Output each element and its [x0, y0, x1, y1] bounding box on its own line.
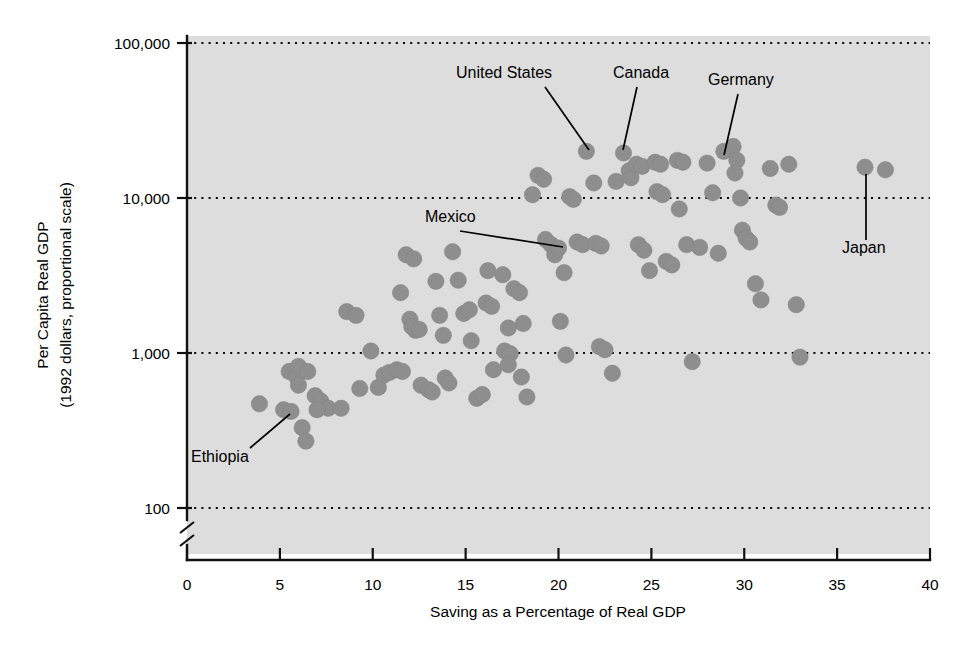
plot-area-background — [187, 36, 930, 554]
x-tick-label: 15 — [457, 576, 474, 593]
data-point — [857, 159, 873, 175]
y-tick-label: 1,000 — [131, 345, 170, 362]
y-axis-title-line1: Per Capita Real GDP — [34, 221, 51, 368]
data-point — [461, 302, 477, 318]
x-tick-label: 40 — [921, 576, 939, 593]
data-point — [411, 321, 427, 337]
data-point — [604, 365, 620, 381]
annotation-label: United States — [456, 64, 552, 81]
data-point — [495, 267, 511, 283]
data-point — [762, 160, 778, 176]
data-point — [753, 292, 769, 308]
data-point — [392, 284, 408, 300]
data-point — [298, 433, 314, 449]
data-point — [788, 296, 804, 312]
x-axis-title: Saving as a Percentage of Real GDP — [430, 603, 686, 620]
data-point — [405, 251, 421, 267]
data-point — [877, 162, 893, 178]
data-point — [363, 343, 379, 359]
data-point — [593, 238, 609, 254]
data-point — [742, 234, 758, 250]
annotation-label: Ethiopia — [191, 448, 249, 465]
x-tick-label: 35 — [829, 576, 846, 593]
data-point — [348, 307, 364, 323]
data-point — [428, 273, 444, 289]
data-point — [251, 396, 267, 412]
data-point — [309, 402, 325, 418]
data-point — [552, 313, 568, 329]
data-point — [480, 262, 496, 278]
data-point — [511, 284, 527, 300]
data-point — [290, 377, 306, 393]
data-point — [500, 357, 516, 373]
data-point — [524, 187, 540, 203]
data-point — [691, 239, 707, 255]
data-point — [727, 165, 743, 181]
x-tick-label: 0 — [183, 576, 192, 593]
data-point — [792, 349, 808, 365]
data-point — [485, 362, 501, 378]
data-point — [664, 257, 680, 273]
data-point — [333, 400, 349, 416]
data-point — [565, 191, 581, 207]
data-point — [394, 363, 410, 379]
annotation-label: Mexico — [425, 208, 476, 225]
x-tick-label: 5 — [276, 576, 285, 593]
data-point — [586, 175, 602, 191]
data-point — [684, 353, 700, 369]
data-point — [444, 244, 460, 260]
data-point — [608, 173, 624, 189]
data-point — [515, 315, 531, 331]
chart-figure: 1001,00010,000100,000 United StatesCanad… — [0, 0, 969, 665]
data-point — [704, 185, 720, 201]
x-tick-label: 30 — [736, 576, 754, 593]
data-point — [636, 242, 652, 258]
data-point — [710, 245, 726, 261]
data-point — [483, 298, 499, 314]
scatter-plot-svg: 1001,00010,000100,000 United StatesCanad… — [0, 0, 969, 665]
y-tick-label: 10,000 — [123, 190, 171, 207]
data-point — [550, 240, 566, 256]
data-point — [513, 369, 529, 385]
y-tick-label: 100 — [144, 500, 170, 517]
data-point — [597, 342, 613, 358]
x-tick-label: 20 — [550, 576, 568, 593]
data-point — [732, 190, 748, 206]
data-point — [535, 171, 551, 187]
annotation-label: Germany — [708, 71, 774, 88]
data-point — [300, 363, 316, 379]
data-point — [431, 307, 447, 323]
data-point — [424, 384, 440, 400]
data-point — [450, 272, 466, 288]
annotation-label: Japan — [842, 239, 886, 256]
x-axis: 0510152025303540 — [183, 548, 939, 593]
data-point — [771, 199, 787, 215]
data-point — [474, 386, 490, 402]
y-tick-label: 100,000 — [114, 35, 170, 52]
data-point — [654, 187, 670, 203]
data-point — [441, 375, 457, 391]
data-point — [500, 320, 516, 336]
data-point — [435, 327, 451, 343]
y-axis-title-line2: (1992 dollars, proportional scale) — [57, 182, 74, 408]
data-point — [556, 264, 572, 280]
data-point — [519, 389, 535, 405]
data-point — [652, 156, 668, 172]
data-point — [781, 156, 797, 172]
annotation-label: Canada — [613, 64, 669, 81]
data-point — [699, 155, 715, 171]
data-point — [558, 347, 574, 363]
data-point — [641, 262, 657, 278]
data-point — [747, 275, 763, 291]
data-point — [675, 154, 691, 170]
data-point — [463, 333, 479, 349]
data-point — [671, 201, 687, 217]
x-tick-label: 25 — [643, 576, 660, 593]
x-tick-label: 10 — [364, 576, 382, 593]
data-point — [352, 380, 368, 396]
